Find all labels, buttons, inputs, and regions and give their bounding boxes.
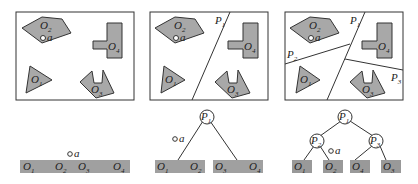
edge-p1-p2 bbox=[320, 121, 341, 136]
partition-p3 bbox=[345, 59, 403, 70]
bsp-diagram: O2 a O4 O1 O3 O2 a O4 O1 O3 P1 O2 a O4 bbox=[0, 0, 418, 184]
panel-1: O2 a O4 O1 O3 bbox=[16, 12, 134, 100]
tree-flat: a O1 O2 O3 O4 bbox=[20, 147, 130, 175]
point-a bbox=[68, 152, 73, 157]
label-p3: P3 bbox=[390, 71, 402, 86]
edge-p2-o1 bbox=[304, 146, 314, 160]
label-a: a bbox=[315, 31, 321, 43]
panel-2: O2 a O4 O1 O3 P1 bbox=[150, 12, 268, 100]
tree-bsp-2: P1 P2 P3 a O1 O2 O4 O3 bbox=[292, 110, 401, 175]
panel-3: O2 a O4 O1 O3 P1 P2 P3 bbox=[285, 12, 403, 100]
label-p1: P1 bbox=[349, 14, 360, 29]
tree-bsp-1: P1 a O1 O2 O3 O4 bbox=[155, 110, 263, 175]
edge-p3-o4 bbox=[355, 146, 372, 160]
label-a: a bbox=[180, 31, 186, 43]
label-a: a bbox=[179, 132, 185, 144]
label-a: a bbox=[335, 144, 341, 156]
point-a bbox=[309, 36, 314, 41]
point-a bbox=[329, 149, 334, 154]
edge-p3-o3 bbox=[380, 146, 386, 160]
label-p2: P2 bbox=[286, 48, 298, 63]
point-a bbox=[174, 36, 179, 41]
label-a: a bbox=[74, 147, 80, 159]
point-a bbox=[41, 36, 46, 41]
label-a: a bbox=[47, 31, 53, 43]
label-p1: P1 bbox=[214, 14, 225, 29]
edge-p2-o2 bbox=[320, 146, 329, 160]
point-a bbox=[173, 137, 178, 142]
edge-p1-right bbox=[210, 121, 237, 160]
